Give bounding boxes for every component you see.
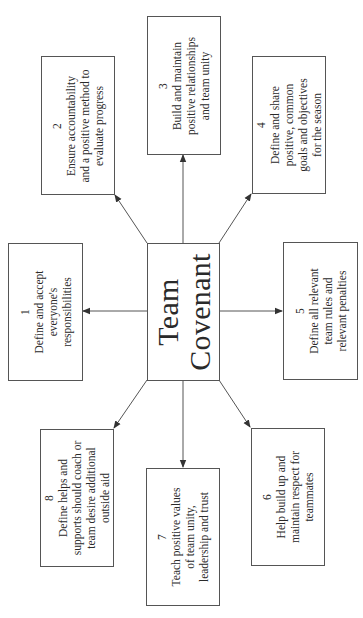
node-line: of team unity, <box>183 488 197 587</box>
node-3: 3 Build and maintain positive relationsh… <box>147 16 221 155</box>
center-title: Team Covenant <box>152 253 216 370</box>
node-text: 6 Help build up and maintain respect for… <box>260 451 316 543</box>
arrow-to-node-2 <box>115 195 147 243</box>
node-5: 5 Define all relevant team rules and rel… <box>283 242 358 380</box>
node-number: 2 <box>50 69 64 182</box>
node-line: for the season <box>310 78 324 171</box>
node-text: 5 Define all relevant team rules and rel… <box>293 268 349 354</box>
node-line: leadership and trust <box>197 488 211 587</box>
team-covenant-diagram: Team Covenant 1 Define and accept everyo… <box>0 0 363 618</box>
node-line: Define helps and <box>56 441 70 556</box>
node-line: outside aid <box>98 441 112 556</box>
node-line: and a positive method to <box>78 69 92 182</box>
node-line: Define all relevant <box>307 268 321 354</box>
node-line: responsibilities <box>60 270 74 353</box>
node-1: 1 Define and accept everyone's responsib… <box>8 243 83 381</box>
node-line: Define and accept <box>32 270 46 353</box>
node-text: 4 Define and share positive, common goal… <box>254 78 324 171</box>
node-line: teammates <box>302 451 316 543</box>
node-6: 6 Help build up and maintain respect for… <box>251 428 325 566</box>
node-text: 2 Ensure accountability and a positive m… <box>50 69 106 182</box>
node-line: positive relationships <box>184 36 198 134</box>
node-text: 3 Build and maintain positive relationsh… <box>156 36 212 134</box>
node-line: evaluate progress <box>92 69 106 182</box>
node-line: goals and objectives <box>296 78 310 171</box>
node-line: Ensure accountability <box>64 69 78 182</box>
arrow-to-node-8 <box>114 380 147 428</box>
node-line: relevant penalties <box>335 268 349 354</box>
node-text: 7 Teach positive values of team unity, l… <box>155 488 211 587</box>
node-line: maintain respect for <box>288 451 302 543</box>
center-title-line: Covenant <box>184 253 216 370</box>
node-text: 8 Define helps and supports should coach… <box>42 441 112 556</box>
node-number: 6 <box>260 451 274 543</box>
node-line: and team unity <box>198 36 212 134</box>
node-number: 8 <box>42 441 56 556</box>
node-line: Build and maintain <box>170 36 184 134</box>
node-number: 3 <box>156 36 170 134</box>
node-number: 5 <box>293 268 307 354</box>
node-text: 1 Define and accept everyone's responsib… <box>18 270 74 353</box>
arrow-to-node-4 <box>219 194 251 243</box>
node-number: 4 <box>254 78 268 171</box>
node-number: 7 <box>155 488 169 587</box>
node-2: 2 Ensure accountability and a positive m… <box>41 56 115 195</box>
node-line: Define and share <box>268 78 282 171</box>
node-line: supports should coach or <box>70 441 84 556</box>
node-line: team rules and <box>321 268 335 354</box>
center-node-team-covenant: Team Covenant <box>147 243 220 381</box>
node-line: Teach positive values <box>169 488 183 587</box>
node-8: 8 Define helps and supports should coach… <box>40 429 114 567</box>
node-number: 1 <box>18 270 32 353</box>
node-line: Help build up and <box>274 451 288 543</box>
node-4: 4 Define and share positive, common goal… <box>252 56 326 194</box>
node-line: positive, common <box>282 78 296 171</box>
node-7: 7 Teach positive values of team unity, l… <box>146 468 220 606</box>
node-line: everyone's <box>46 270 60 353</box>
center-title-line: Team <box>152 253 184 370</box>
arrow-to-node-6 <box>219 380 250 427</box>
node-line: team desire additional <box>84 441 98 556</box>
